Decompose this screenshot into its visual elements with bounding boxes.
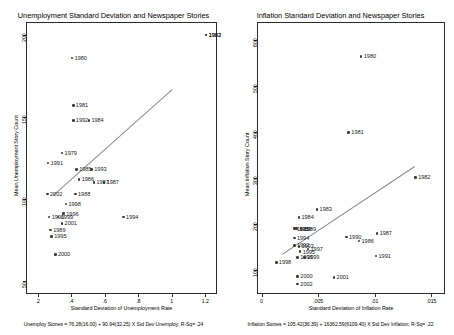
x-tick-label: .8 [124, 298, 152, 304]
data-point-label: 1981 [76, 102, 88, 108]
data-point-label: 1980 [75, 55, 87, 61]
regression-caption: Unemploy Stories = 76.28(16.00) + 90.94(… [0, 321, 227, 327]
data-point-label: 1982 [418, 174, 430, 180]
data-point-label: 1995 [54, 233, 66, 239]
data-point [347, 131, 350, 134]
x-tick-mark [318, 294, 319, 297]
y-tick-label: 150 [21, 115, 27, 124]
data-point-label: 1983 [209, 32, 221, 38]
x-tick-label: 0 [248, 298, 276, 304]
data-point [75, 168, 78, 171]
data-point-label: 1991 [51, 160, 63, 166]
data-point-label: 1999 [61, 214, 73, 220]
data-point-label: 1998 [68, 201, 80, 207]
data-point [72, 104, 75, 107]
two-panel-scatter-figure: Unemployment Standard Deviation and News… [0, 0, 454, 335]
chart-title: Unemployment Standard Deviation and News… [0, 11, 227, 20]
data-point-label: 2000 [58, 251, 70, 257]
data-point-label: 1979 [65, 150, 77, 156]
data-point-label: 2000 [300, 273, 312, 279]
data-point [414, 176, 417, 179]
x-tick-label: .01 [361, 298, 389, 304]
data-point-label: 1998 [279, 259, 291, 265]
regression-caption: Inflation Stories = 105.42(36.39) + 1636… [227, 321, 454, 327]
data-point-label: 2001 [65, 220, 77, 226]
data-point-label: 1994 [297, 235, 309, 241]
x-tick-mark [172, 294, 173, 297]
data-point [72, 119, 75, 122]
y-tick-label: 600 [252, 39, 258, 48]
data-point-label: 2001 [337, 274, 349, 280]
x-tick-mark [262, 294, 263, 297]
data-point [275, 261, 278, 264]
y-tick-label: 500 [252, 85, 258, 94]
x-tick-label: .005 [304, 298, 332, 304]
data-point-label: 2002 [300, 281, 312, 287]
data-point [295, 227, 298, 230]
data-point-label: 1994 [126, 214, 138, 220]
data-point-label: 1999 [307, 254, 319, 260]
x-axis-label: Standard Deviation of Inflation Rate [257, 305, 445, 311]
y-tick-label: 200 [21, 33, 27, 42]
data-point [303, 256, 306, 259]
data-point-label: 2002 [50, 191, 62, 197]
x-tick-mark [431, 294, 432, 297]
data-point-label: 1986 [362, 238, 374, 244]
x-axis-label: Standard Deviation of Unemployment Rate [26, 305, 217, 311]
y-tick-label: 50 [21, 282, 27, 288]
data-point-label: 1984 [302, 214, 314, 220]
data-point [296, 256, 299, 259]
data-point [298, 245, 301, 248]
data-point-label: 1990 [349, 234, 361, 240]
data-point [298, 216, 301, 219]
x-tick-mark [375, 294, 376, 297]
y-tick-label: 400 [252, 131, 258, 140]
data-point-label: 1981 [351, 129, 363, 135]
data-point-label: 1980 [364, 53, 376, 59]
data-point-label: 1989 [304, 226, 316, 232]
chart-title: Inflation Standard Deviation and Newspap… [227, 11, 454, 20]
data-point [122, 216, 125, 219]
data-point [293, 244, 296, 247]
data-point-label: 1987 [380, 230, 392, 236]
x-tick-mark [105, 294, 106, 297]
data-point [376, 232, 379, 235]
inflation-panel: Inflation Standard Deviation and Newspap… [227, 0, 454, 335]
data-point [296, 275, 299, 278]
x-tick-label: .6 [91, 298, 119, 304]
y-tick-label: 300 [252, 177, 258, 186]
data-point-label: 1997 [311, 246, 323, 252]
data-point-label: 1993 [94, 166, 106, 172]
data-point-label: 1984 [91, 117, 103, 123]
x-tick-mark [205, 294, 206, 297]
y-tick-label: 100 [21, 197, 27, 206]
data-point-label: 1988 [78, 191, 90, 197]
plot-area [257, 22, 445, 294]
unemployment-panel: Unemployment Standard Deviation and News… [0, 0, 227, 335]
data-point-label: 1989 [53, 227, 65, 233]
data-point [50, 235, 53, 238]
x-tick-label: 1.2 [191, 298, 219, 304]
y-axis-label: Mean Inflation Story Count [244, 133, 250, 196]
data-point [293, 237, 296, 240]
y-tick-label: 100 [252, 268, 258, 277]
x-tick-mark [38, 294, 39, 297]
x-tick-label: 1 [158, 298, 186, 304]
y-axis-label: Mean Unemployment Story Count [13, 115, 19, 196]
x-tick-label: .4 [57, 298, 85, 304]
y-tick-label: 200 [252, 223, 258, 232]
data-point-label: 1992 [76, 117, 88, 123]
data-point [93, 181, 96, 184]
data-point [90, 168, 93, 171]
x-tick-label: .2 [24, 298, 52, 304]
data-point [54, 253, 57, 256]
data-point-label: 1997 [96, 179, 108, 185]
x-tick-mark [138, 294, 139, 297]
x-tick-label: .015 [417, 298, 445, 304]
x-tick-mark [71, 294, 72, 297]
data-point [74, 193, 77, 196]
data-point-label: 1983 [320, 206, 332, 212]
data-point-label: 1991 [379, 253, 391, 259]
